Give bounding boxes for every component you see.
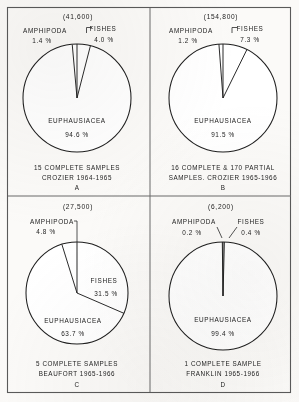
panel-d: (6,200) AMPHIPODA 0.2 % FISHES 0.4 % EUP… [169, 203, 277, 388]
panel-c-fishes-pct: 31.5 % [94, 290, 118, 297]
panel-c-caption-line2: BEAUFORT 1965-1966 [39, 370, 115, 377]
panel-c-caption-line1: 5 COMPLETE SAMPLES [36, 360, 118, 367]
panel-c-fishes-name: FISHES [91, 277, 118, 284]
panel-b-caption-line1: 16 COMPLETE & 170 PARTIAL [171, 164, 275, 171]
panel-b-total-label: (154,800) [204, 13, 239, 21]
panel-c-amphipoda-name: AMPHIPODA [30, 218, 74, 225]
panel-a-fishes-pct: 4.0 % [94, 36, 113, 43]
panel-b: (154,800) AMPHIPODA 1.2 % FISHES 7.3 % E… [169, 13, 278, 191]
panel-c-letter: C [74, 381, 79, 388]
panel-d-letter: D [220, 381, 225, 388]
panel-c-amphipoda-leader [74, 221, 77, 242]
panel-a-euphausiacea-pct: 94.6 % [65, 131, 89, 138]
panel-b-fishes-name: FISHES [237, 25, 264, 32]
panel-b-caption-line2: SAMPLES. CROZIER 1965-1966 [169, 174, 278, 181]
panel-d-total-label: (6,200) [208, 203, 234, 211]
panel-c: (27,500) AMPHIPODA 4.8 % FISHES 31.5 % E… [26, 203, 128, 388]
panel-d-amphipoda-pct: 0.2 % [182, 229, 201, 236]
panel-d-fishes-name: FISHES [238, 218, 265, 225]
panel-b-letter: B [221, 184, 226, 191]
panel-a-euphausiacea-name: EUPHAUSIACEA [48, 117, 106, 124]
panel-c-amphipoda-pct: 4.8 % [36, 228, 55, 235]
panel-d-caption-line1: 1 COMPLETE SAMPLE [184, 360, 261, 367]
panel-d-fishes-leader [229, 227, 237, 238]
panel-c-euphausiacea-name: EUPHAUSIACEA [44, 317, 102, 324]
panel-d-caption-line2: FRANKLIN 1965-1966 [186, 370, 259, 377]
panel-c-total-label: (27,500) [63, 203, 93, 211]
panel-d-euphausiacea-name: EUPHAUSIACEA [194, 316, 252, 323]
figure-container: (41,600) AMPHIPODA 1.4 % FISHES 4.0 % EU… [0, 0, 299, 402]
panel-b-euphausiacea-name: EUPHAUSIACEA [194, 117, 252, 124]
panel-a: (41,600) AMPHIPODA 1.4 % FISHES 4.0 % EU… [23, 13, 131, 191]
panel-d-fishes-pct: 0.4 % [241, 229, 260, 236]
panel-a-letter: A [75, 184, 80, 191]
panel-a-total-label: (41,600) [63, 13, 93, 21]
panel-b-fishes-pct: 7.3 % [240, 36, 259, 43]
panel-b-amphipoda-name: AMPHIPODA [169, 27, 213, 34]
panel-c-euphausiacea-pct: 63.7 % [61, 330, 85, 337]
panel-a-caption-line2: CROZIER 1964-1965 [42, 174, 112, 181]
panel-a-caption-line1: 15 COMPLETE SAMPLES [34, 164, 120, 171]
panel-d-amphipoda-leader [217, 227, 222, 238]
panel-d-amphipoda-name: AMPHIPODA [172, 218, 216, 225]
panel-d-euphausiacea-pct: 99.4 % [211, 330, 235, 337]
panel-a-fishes-name: FISHES [90, 25, 117, 32]
panel-a-amphipoda-name: AMPHIPODA [23, 27, 67, 34]
panel-b-euphausiacea-pct: 91.5 % [211, 131, 235, 138]
figure-svg: (41,600) AMPHIPODA 1.4 % FISHES 4.0 % EU… [0, 0, 299, 402]
panel-b-amphipoda-pct: 1.2 % [178, 37, 197, 44]
panel-a-amphipoda-pct: 1.4 % [32, 37, 51, 44]
